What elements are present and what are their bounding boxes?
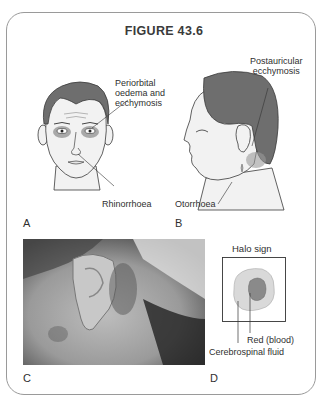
label-postauricular: Postauricular ecchymosis [250,56,303,76]
label-cerebrospinal-fluid: Cerebrospinal fluid [209,347,284,357]
postauricular-bruise-photo [23,239,205,365]
label-otorrhoea: Otorrhoea [175,199,216,209]
label-periorbital: Periorbital oedema and ecchymosis [115,78,165,108]
panel-letter-c: C [23,372,31,384]
side-profile-illustration [172,68,292,210]
panel-letter-d: D [210,372,218,384]
label-rhinorrhoea: Rhinorrhoea [102,199,152,209]
panel-letter-a: A [23,217,30,229]
label-halo-sign: Halo sign [232,244,272,254]
front-face-illustration [20,78,130,190]
figure-title: FIGURE 43.6 [0,24,328,38]
panel-letter-b: B [175,217,182,229]
halo-sign-illustration [222,257,286,323]
label-red-blood: Red (blood) [247,335,294,345]
